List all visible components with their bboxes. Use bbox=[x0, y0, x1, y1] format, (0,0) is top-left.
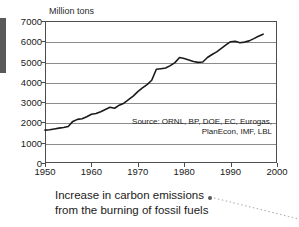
figure-caption: Increase in carbon emissions from the bu… bbox=[55, 188, 208, 218]
caption-leader-line bbox=[214, 198, 299, 219]
caption-line-1: Increase in carbon emissions bbox=[55, 188, 208, 203]
caption-line-2: from the burning of fossil fuels bbox=[55, 203, 208, 218]
emissions-line-series bbox=[45, 34, 263, 130]
chart-figure: Million tons 010002000300040005000600070… bbox=[0, 0, 299, 227]
caption-bullet-icon bbox=[208, 196, 212, 200]
